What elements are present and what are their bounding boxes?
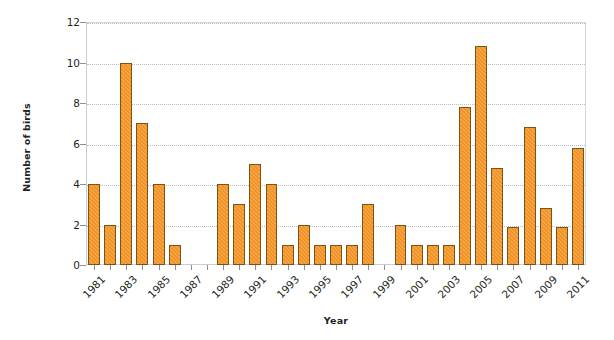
x-tick-mark — [546, 265, 547, 270]
x-tick-mark — [320, 265, 321, 270]
x-tick-mark — [94, 265, 95, 270]
bar-series — [86, 22, 586, 265]
x-tick-mark — [530, 265, 531, 270]
bar-chart-figure: Number of birds 024681012 19811983198519… — [0, 0, 614, 340]
x-tick-label: 2001 — [403, 273, 430, 300]
y-tick-label: 0 — [40, 259, 80, 271]
bar — [346, 245, 358, 265]
x-tick-label: 2005 — [467, 273, 494, 300]
x-tick-mark — [352, 265, 353, 270]
y-tick-label: 6 — [40, 138, 80, 150]
x-tick-label: 1985 — [145, 273, 172, 300]
x-tick-mark — [175, 265, 176, 270]
x-tick-mark — [239, 265, 240, 270]
x-tick-mark — [513, 265, 514, 270]
y-tick-label: 4 — [40, 178, 80, 190]
x-tick-label: 1997 — [338, 273, 365, 300]
bar — [572, 148, 584, 265]
x-tick-label: 2003 — [435, 273, 462, 300]
bar — [540, 208, 552, 265]
x-tick-mark — [562, 265, 563, 270]
x-tick-label: 1995 — [306, 273, 333, 300]
bar — [556, 227, 568, 265]
bar — [169, 245, 181, 265]
x-tick-mark — [449, 265, 450, 270]
x-tick-label: 2009 — [532, 273, 559, 300]
bar — [459, 107, 471, 265]
bar — [266, 184, 278, 265]
x-tick-mark — [110, 265, 111, 270]
y-axis-title: Number of birds — [21, 68, 32, 228]
bar — [491, 168, 503, 265]
bar — [153, 184, 165, 265]
bar — [524, 127, 536, 265]
x-tick-mark — [223, 265, 224, 270]
y-tick-label: 10 — [40, 57, 80, 69]
y-tick-label: 2 — [40, 219, 80, 231]
x-tick-mark — [207, 265, 208, 270]
bar — [104, 225, 116, 266]
bar — [475, 46, 487, 265]
bar — [217, 184, 229, 265]
bar — [88, 184, 100, 265]
x-tick-label: 1983 — [112, 273, 139, 300]
x-tick-mark — [433, 265, 434, 270]
y-tick-label: 12 — [40, 16, 80, 28]
bar — [507, 227, 519, 265]
x-tick-label: 1987 — [177, 273, 204, 300]
bar — [330, 245, 342, 265]
x-axis-title: Year — [86, 315, 586, 326]
x-tick-mark — [368, 265, 369, 270]
x-tick-label: 1999 — [370, 273, 397, 300]
x-tick-mark — [304, 265, 305, 270]
x-tick-mark — [159, 265, 160, 270]
y-tick-mark — [80, 265, 86, 266]
x-tick-mark — [465, 265, 466, 270]
x-tick-label: 1993 — [274, 273, 301, 300]
bar — [395, 225, 407, 266]
bar — [120, 63, 132, 266]
x-tick-mark — [481, 265, 482, 270]
x-tick-label: 2007 — [500, 273, 527, 300]
x-tick-label: 2011 — [564, 273, 591, 300]
x-tick-mark — [191, 265, 192, 270]
x-tick-mark — [384, 265, 385, 270]
bar — [298, 225, 310, 266]
bar — [233, 204, 245, 265]
x-tick-label: 1981 — [80, 273, 107, 300]
bar — [443, 245, 455, 265]
bar — [362, 204, 374, 265]
x-tick-mark — [142, 265, 143, 270]
x-tick-label: 1991 — [241, 273, 268, 300]
x-tick-mark — [417, 265, 418, 270]
x-tick-mark — [288, 265, 289, 270]
bar — [411, 245, 423, 265]
bar — [136, 123, 148, 265]
x-tick-mark — [401, 265, 402, 270]
x-tick-mark — [336, 265, 337, 270]
bar — [282, 245, 294, 265]
x-tick-mark — [255, 265, 256, 270]
bar — [427, 245, 439, 265]
x-tick-label: 1989 — [209, 273, 236, 300]
x-tick-mark — [271, 265, 272, 270]
x-tick-mark — [578, 265, 579, 270]
x-tick-mark — [497, 265, 498, 270]
y-tick-label: 8 — [40, 97, 80, 109]
bar — [314, 245, 326, 265]
bar — [249, 164, 261, 265]
x-tick-mark — [126, 265, 127, 270]
